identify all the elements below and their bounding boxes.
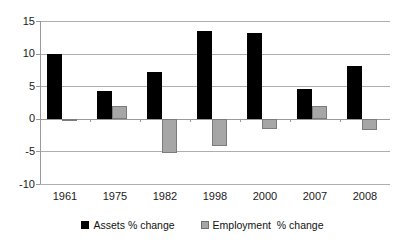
chart-legend: Assets % change Employment % change	[0, 217, 405, 233]
bar-assets-1975	[97, 91, 112, 119]
x-axis-label-2000: 2000	[240, 190, 290, 203]
bar-employment-2007	[312, 106, 327, 118]
y-tick-minus5	[36, 151, 40, 152]
x-axis-label-2007: 2007	[290, 190, 340, 203]
plot-area	[40, 21, 390, 184]
y-tick-0	[36, 119, 40, 120]
y-axis-tick-label: 15	[0, 16, 35, 27]
legend-item-assets: Assets % change	[81, 219, 174, 231]
x-tick-5	[290, 119, 291, 122]
bar-employment-2008	[362, 119, 377, 130]
legend-label-assets: Assets % change	[93, 219, 174, 231]
legend-label-employment: Employment % change	[213, 219, 324, 231]
bar-assets-1961	[47, 54, 62, 119]
bar-employment-1982	[162, 119, 177, 153]
y-axis-tick-label: -10	[0, 179, 35, 190]
gray-square-swatch-icon	[201, 221, 209, 229]
y-tick-minus10	[36, 184, 40, 185]
black-square-swatch-icon	[81, 221, 89, 229]
x-axis-label-1975: 1975	[90, 190, 140, 203]
x-tick-3	[190, 119, 191, 122]
bar-assets-1982	[147, 72, 162, 119]
x-tick-6	[340, 119, 341, 122]
y-tick-15	[36, 21, 40, 22]
x-axis-labels: 1961197519821998200020072008	[40, 190, 390, 206]
bar-assets-1998	[197, 31, 212, 118]
y-axis-tick-label: 0	[0, 113, 35, 124]
gridline-minus5	[40, 151, 390, 152]
bar-employment-1998	[212, 119, 227, 146]
bar-assets-2007	[297, 89, 312, 118]
x-axis-label-1961: 1961	[40, 190, 90, 203]
bar-employment-1961	[62, 119, 77, 121]
x-tick-1	[90, 119, 91, 122]
gridline-5	[40, 86, 390, 87]
bar-assets-2000	[247, 33, 262, 119]
bar-chart: 15 10 5 0 -5 -10	[0, 0, 405, 246]
y-axis-tick-label: -5	[0, 146, 35, 157]
bar-assets-2008	[347, 66, 362, 119]
x-tick-2	[140, 119, 141, 122]
x-axis-label-1998: 1998	[190, 190, 240, 203]
gridline-10	[40, 54, 390, 55]
x-axis-label-1982: 1982	[140, 190, 190, 203]
gridline-minus10	[40, 184, 390, 185]
gridline-15	[40, 21, 390, 22]
y-axis-tick-label: 10	[0, 48, 35, 59]
bar-employment-2000	[262, 119, 277, 129]
y-tick-5	[36, 86, 40, 87]
x-axis-label-2008: 2008	[340, 190, 390, 203]
legend-item-employment: Employment % change	[201, 219, 324, 231]
y-axis-line	[40, 21, 41, 184]
y-axis-tick-label: 5	[0, 81, 35, 92]
bar-employment-1975	[112, 106, 127, 119]
y-tick-10	[36, 54, 40, 55]
x-tick-4	[240, 119, 241, 122]
